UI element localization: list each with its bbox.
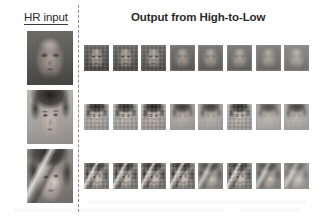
output-image-grid — [84, 31, 314, 208]
scan-artifact — [240, 208, 300, 212]
face-woman-bangs-icon — [256, 163, 281, 189]
output-thumbnail — [198, 163, 223, 189]
face-elderly-glasses-icon — [141, 45, 166, 71]
face-woman-bangs-icon — [84, 163, 109, 189]
face-young-man-icon — [113, 104, 138, 130]
figure-panel: HR input Output from High-to-Low — [0, 0, 325, 219]
scan-artifact — [14, 208, 224, 212]
output-thumbnail — [256, 163, 281, 189]
output-thumbnail — [141, 163, 166, 189]
output-thumbnail — [84, 45, 109, 71]
output-thumbnail — [113, 104, 138, 130]
face-elderly-glasses-icon — [256, 45, 281, 71]
output-row-3 — [84, 149, 314, 203]
output-thumbnail — [84, 163, 109, 189]
face-woman-bangs-icon — [198, 163, 223, 189]
output-thumbnail — [113, 45, 138, 71]
face-woman-bangs-icon — [113, 163, 138, 189]
output-thumbnail — [227, 45, 252, 71]
output-thumbnail — [284, 45, 309, 71]
output-thumbnail — [198, 45, 223, 71]
face-young-man-icon — [227, 104, 252, 130]
face-elderly-glasses-icon — [284, 45, 309, 71]
output-thumbnail — [256, 104, 281, 130]
face-young-man-icon — [84, 104, 109, 130]
face-young-man-icon — [284, 104, 309, 130]
hr-input-column — [27, 31, 73, 208]
face-young-man-icon — [27, 90, 73, 144]
output-thumbnail — [141, 45, 166, 71]
face-woman-bangs-icon — [170, 163, 195, 189]
output-thumbnail — [170, 163, 195, 189]
face-young-man-icon — [141, 104, 166, 130]
face-young-man-icon — [170, 104, 195, 130]
hr-input-image-row-1 — [27, 31, 73, 85]
output-thumbnail — [227, 163, 252, 189]
face-woman-bangs-icon — [227, 163, 252, 189]
face-young-man-icon — [198, 104, 223, 130]
hr-input-image-row-3 — [27, 149, 73, 203]
output-thumbnail — [198, 104, 223, 130]
face-elderly-glasses-icon — [227, 45, 252, 71]
output-column-header: Output from High-to-Low — [131, 11, 265, 23]
face-woman-bangs-icon — [284, 163, 309, 189]
face-elderly-glasses-icon — [27, 31, 73, 85]
output-row-2 — [84, 90, 314, 144]
hr-input-image-row-2 — [27, 90, 73, 144]
face-woman-bangs-icon — [27, 149, 73, 203]
vertical-dashed-divider — [78, 5, 79, 212]
output-thumbnail — [284, 163, 309, 189]
output-thumbnail — [284, 104, 309, 130]
face-woman-bangs-icon — [141, 163, 166, 189]
face-elderly-glasses-icon — [170, 45, 195, 71]
face-elderly-glasses-icon — [198, 45, 223, 71]
output-thumbnail — [141, 104, 166, 130]
scan-artifact — [88, 200, 306, 204]
output-row-1 — [84, 31, 314, 85]
output-thumbnail — [256, 45, 281, 71]
output-thumbnail — [84, 104, 109, 130]
face-young-man-icon — [256, 104, 281, 130]
output-thumbnail — [170, 104, 195, 130]
face-elderly-glasses-icon — [84, 45, 109, 71]
output-thumbnail — [170, 45, 195, 71]
face-elderly-glasses-icon — [113, 45, 138, 71]
output-thumbnail — [113, 163, 138, 189]
hr-input-column-header: HR input — [24, 11, 68, 25]
output-thumbnail — [227, 104, 252, 130]
